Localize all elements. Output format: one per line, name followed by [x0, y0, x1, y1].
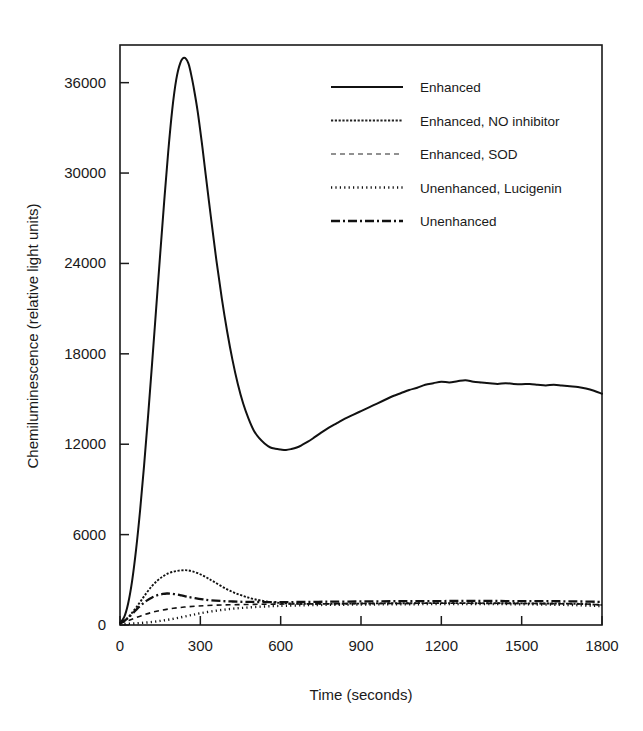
y-axis-title: Chemiluminescence (relative light units): [24, 203, 41, 468]
y-tick-label: 6000: [73, 526, 106, 543]
y-tick-label: 30000: [64, 164, 106, 181]
x-tick-label: 600: [268, 637, 293, 654]
y-tick-label: 24000: [64, 254, 106, 271]
legend-label: Enhanced, SOD: [420, 147, 518, 162]
x-tick-label: 900: [348, 637, 373, 654]
figure-background: [0, 0, 643, 731]
x-axis-title: Time (seconds): [310, 686, 413, 703]
legend-label: Enhanced, NO inhibitor: [420, 114, 560, 129]
chemiluminescence-line-chart: 0300600900120015001800 06000120001800024…: [0, 0, 643, 731]
y-tick-label: 18000: [64, 345, 106, 362]
x-tick-label: 1200: [425, 637, 458, 654]
chart-figure: 0300600900120015001800 06000120001800024…: [0, 0, 643, 731]
legend-label: Unenhanced, Lucigenin: [420, 181, 562, 196]
legend-label: Enhanced: [420, 80, 481, 95]
x-tick-label: 300: [188, 637, 213, 654]
legend-label: Unenhanced: [420, 214, 497, 229]
x-tick-label: 0: [116, 637, 124, 654]
x-tick-label: 1500: [505, 637, 538, 654]
y-tick-label: 36000: [64, 74, 106, 91]
x-tick-label: 1800: [585, 637, 618, 654]
y-tick-label: 0: [98, 616, 106, 633]
y-tick-label: 12000: [64, 435, 106, 452]
